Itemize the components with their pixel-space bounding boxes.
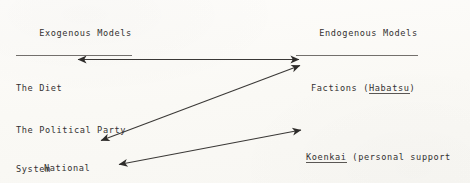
node-factions-romaji: Habatsu (369, 83, 410, 94)
node-koenkai-term: Koenkai (306, 152, 347, 163)
node-koenkai-line1: Koenkai (personal support (306, 151, 451, 164)
node-factions-open-paren: ( (357, 83, 369, 93)
node-the-diet-label: The Diet (16, 82, 62, 95)
node-prefectural: Prefectural (16, 158, 108, 183)
diagram-canvas: Factions --> Factions (diagonal up-right… (0, 0, 470, 183)
node-koenkai-gloss-line1: (personal support (347, 152, 451, 162)
heading-exogenous-models-text: Exogenous Models (39, 28, 132, 38)
node-factions-close-paren: ) (410, 83, 416, 93)
node-factions: Factions (Habatsu) (311, 55, 415, 121)
node-factions-line: Factions (Habatsu) (311, 82, 415, 95)
connector-prefectural-koenkai (119, 130, 301, 165)
heading-endogenous-models-text: Endogenous Models (319, 28, 418, 38)
node-factions-term: Factions (311, 83, 357, 93)
node-koenkai: Koenkai (personal support organizations) (306, 124, 451, 183)
